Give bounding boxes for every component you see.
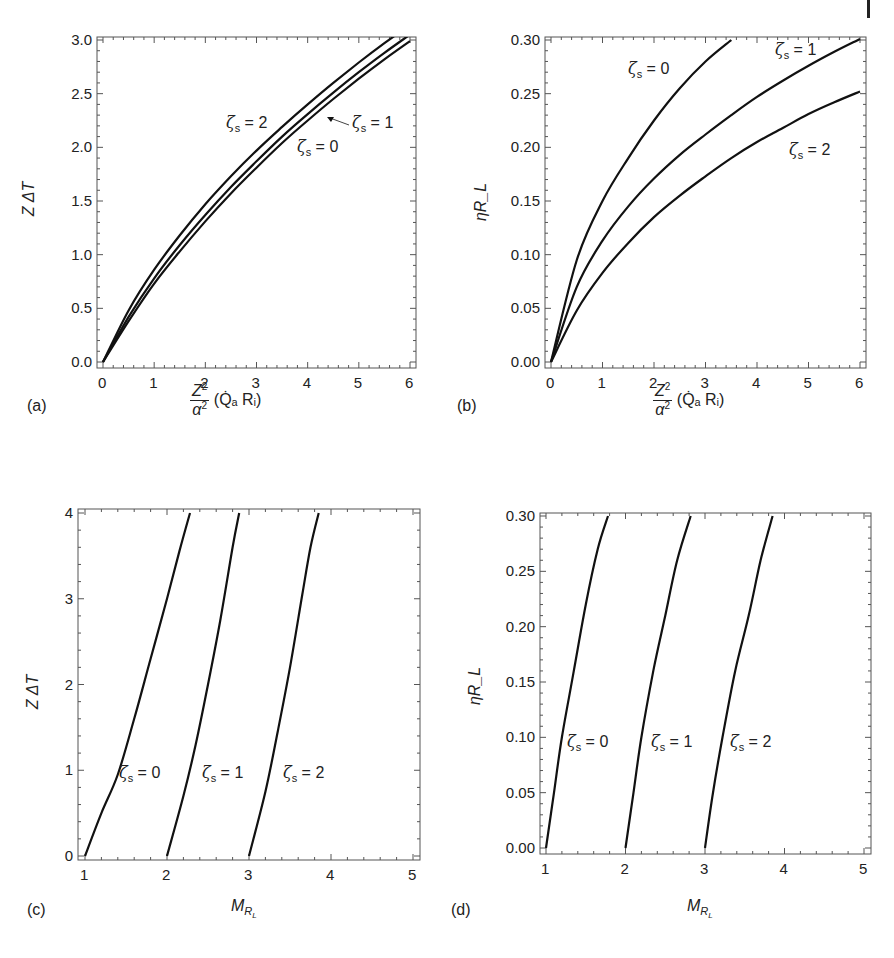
panel-tag: (d) — [451, 901, 471, 919]
x-tick-label: 1 — [541, 860, 549, 877]
x-tick-label: 5 — [408, 866, 416, 883]
x-tick-label: 0 — [98, 374, 106, 391]
plot-4 — [540, 513, 871, 854]
y-tick-label: 4 — [65, 504, 73, 521]
y-tick-label: 0.25 — [511, 85, 540, 102]
plot-frame — [78, 509, 420, 860]
x-axis-label: MRL — [687, 897, 713, 920]
plot-frame — [545, 37, 866, 368]
x-tick-label: 3 — [252, 374, 260, 391]
y-tick-label: 1.5 — [71, 192, 92, 209]
annotation-zeta-1: ζs = 1 — [352, 113, 393, 134]
x-tick-label: 2 — [200, 374, 208, 391]
plot-3 — [78, 509, 420, 860]
plot-2 — [545, 37, 866, 368]
y-tick-label: 2.5 — [71, 85, 92, 102]
y-tick-label: 0.20 — [511, 138, 540, 155]
y-axis-label: ηR_L — [472, 183, 490, 221]
curve — [705, 516, 773, 848]
y-tick-label: 2 — [65, 676, 73, 693]
y-tick-label: 0.00 — [511, 353, 540, 370]
curve — [249, 513, 319, 856]
panel-tag: (a) — [27, 397, 47, 415]
curve — [551, 39, 860, 362]
y-tick-label: 0.00 — [506, 839, 535, 856]
figure-plots — [0, 0, 894, 958]
curve — [103, 41, 410, 362]
y-tick-label: 0.25 — [506, 562, 535, 579]
curve — [551, 92, 860, 363]
annotation-zeta-0: ζs = 0 — [297, 137, 338, 158]
y-tick-label: 0.30 — [506, 507, 535, 524]
annotation-zeta-2: ζs = 2 — [789, 140, 830, 161]
x-tick-label: 3 — [244, 866, 252, 883]
y-tick-label: 0.10 — [506, 728, 535, 745]
x-tick-label: 4 — [780, 860, 788, 877]
y-tick-label: 0.20 — [506, 618, 535, 635]
y-tick-label: 0.05 — [511, 299, 540, 316]
x-tick-label: 5 — [859, 860, 867, 877]
x-tick-label: 6 — [855, 374, 863, 391]
x-tick-label: 6 — [405, 374, 413, 391]
annotation-zeta-0: ζs = 0 — [119, 763, 160, 784]
x-tick-label: 5 — [354, 374, 362, 391]
x-tick-label: 2 — [621, 860, 629, 877]
x-tick-label: 3 — [701, 374, 709, 391]
curve — [626, 516, 691, 848]
y-tick-label: 0.15 — [511, 192, 540, 209]
x-tick-label: 3 — [700, 860, 708, 877]
x-tick-label: 5 — [804, 374, 812, 391]
x-tick-label: 4 — [326, 866, 334, 883]
y-tick-label: 1.0 — [71, 246, 92, 263]
y-tick-label: 0.15 — [506, 673, 535, 690]
curve — [103, 35, 410, 362]
x-tick-label: 1 — [80, 866, 88, 883]
x-tick-label: 2 — [649, 374, 657, 391]
y-tick-label: 0.30 — [511, 31, 540, 48]
panel-tag: (b) — [457, 397, 477, 415]
x-tick-label: 0 — [546, 374, 554, 391]
x-axis-label: Z2α2 (Q̇ₐ Rᵢ) — [653, 382, 724, 419]
annotation-zeta-2: ζs = 2 — [226, 113, 267, 134]
annotation-zeta-1: ζs = 1 — [775, 40, 816, 61]
plot-frame — [97, 37, 416, 368]
curve — [85, 513, 190, 856]
annotation-zeta-1: ζs = 1 — [651, 732, 692, 753]
plot-frame — [540, 513, 871, 854]
y-tick-label: 0.10 — [511, 246, 540, 263]
y-axis-label: Z ΔT — [20, 182, 38, 217]
y-tick-label: 0.05 — [506, 784, 535, 801]
x-axis-label: MRL — [231, 897, 257, 920]
plot-1 — [97, 25, 416, 368]
x-tick-label: 4 — [303, 374, 311, 391]
y-tick-label: 1 — [65, 761, 73, 778]
annotation-arrow — [330, 118, 349, 125]
x-tick-label: 1 — [598, 374, 606, 391]
annotation-zeta-2: ζs = 2 — [730, 732, 771, 753]
panel-tag: (c) — [27, 901, 46, 919]
x-tick-label: 4 — [752, 374, 760, 391]
y-tick-label: 3 — [65, 590, 73, 607]
x-tick-label: 1 — [149, 374, 157, 391]
y-tick-label: 0.0 — [71, 353, 92, 370]
curve — [167, 513, 239, 856]
annotation-zeta-0: ζs = 0 — [567, 732, 608, 753]
x-tick-label: 2 — [162, 866, 170, 883]
y-axis-label: Z ΔT — [24, 675, 42, 710]
annotation-zeta-0: ζs = 0 — [628, 59, 669, 80]
curve — [546, 516, 608, 848]
annotation-zeta-2: ζs = 2 — [283, 763, 324, 784]
y-tick-label: 0.5 — [71, 299, 92, 316]
curve — [551, 40, 731, 362]
y-tick-label: 0 — [65, 847, 73, 864]
annotation-zeta-1: ζs = 1 — [202, 763, 243, 784]
y-tick-label: 3.0 — [71, 31, 92, 48]
y-axis-label: ηR_L — [466, 667, 484, 705]
y-tick-label: 2.0 — [71, 138, 92, 155]
